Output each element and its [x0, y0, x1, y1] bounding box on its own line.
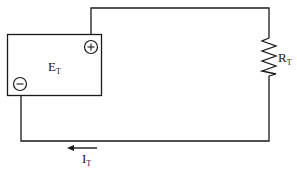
wire-top	[91, 8, 269, 41]
positive-terminal-icon	[85, 41, 98, 54]
resistor-symbol	[262, 38, 276, 76]
resistor-label: RT	[278, 50, 292, 67]
current-label: IT	[82, 151, 91, 168]
negative-terminal-icon	[14, 78, 27, 91]
circuit-diagram: ET RT IT	[0, 0, 297, 170]
